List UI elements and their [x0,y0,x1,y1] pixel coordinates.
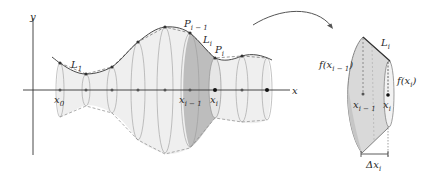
magnified-frustum [348,37,394,157]
label-f-x-i-minus-1: f(xi − 1) [318,59,353,73]
arrow-curve [253,11,332,27]
magnify-arrow [253,11,333,29]
center-x-i-minus-1 [362,93,365,96]
label-delta-x-i: Δxi [365,159,381,173]
label-P-i-minus-1: Pi − 1 [183,18,208,32]
center-x-i [386,93,390,97]
label-P-i: Pi [214,44,224,58]
arrow-head-icon [327,24,333,30]
label-L-i-right: Li [380,37,390,51]
x-axis-label: x [292,85,298,96]
label-f-x-i: f(xi) [396,75,417,89]
y-axis-label: y [29,11,36,22]
surface-of-revolution-diagram: y x x0 L1 Pi − 1 Li [0,0,436,177]
